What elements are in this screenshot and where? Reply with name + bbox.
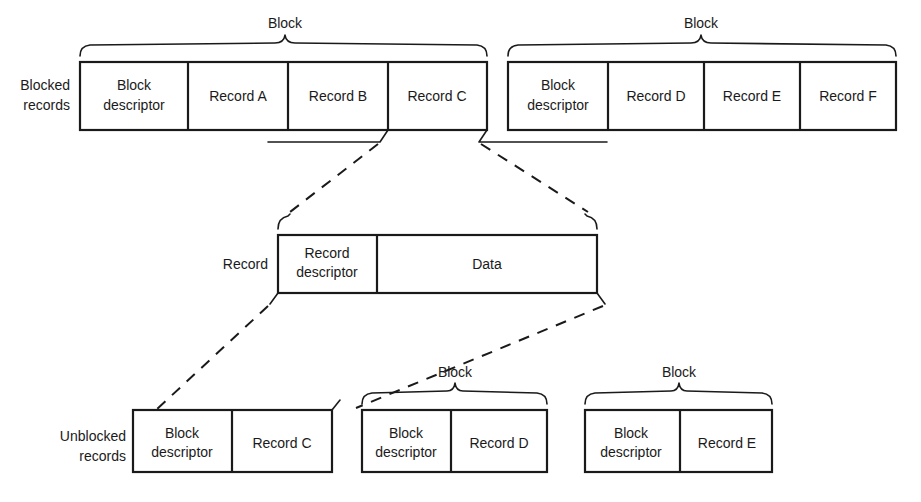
record-c-expansion-connectors [268,130,607,212]
record-detail-cell-0-line2: descriptor [296,264,358,280]
block-brace-2-label: Block [684,15,719,31]
unblocked-block-3-brace-label: Block [662,364,697,380]
block-brace-2: Block [508,15,896,56]
unblocked-block-1-cell-0-line2: descriptor [151,444,213,460]
block-brace-1-label: Block [268,15,303,31]
unblocked-block-3-cell-0-line1: Block [614,425,649,441]
unblocked-records-label: Unblocked records [60,428,126,464]
record-blocking-diagram: Blocked records Block Block descriptor R… [0,0,921,502]
blocked-block-2-cell-3-line1: Record F [819,88,877,104]
unblocked-block-3-cell-0-line2: descriptor [600,444,662,460]
blocked-block-2-cell-1-line1: Record D [626,88,685,104]
blocked-records-label-line2: records [23,97,70,113]
unblocked-block-2-cell-1-line1: Record D [469,435,528,451]
unblocked-block-2-brace-label: Block [438,364,473,380]
unblocked-block-1-cell-1-line1: Record C [252,435,311,451]
blocked-block-1-cell-2-line1: Record B [309,88,367,104]
diagram-canvas: Blocked records Block Block descriptor R… [0,0,921,502]
unblocked-records-label-line1: Unblocked [60,428,126,444]
blocked-records-label: Blocked records [20,77,70,113]
unblocked-records-label-line2: records [79,448,126,464]
blocked-block-2-cell-2-line1: Record E [723,88,781,104]
blocked-block-1-cell-0-line2: descriptor [103,97,165,113]
blocked-block-2: Block descriptor Record D Record E Recor… [508,62,896,130]
unblocked-block-1: Block descriptor Record C [133,400,340,472]
record-detail-cell-0-line1: Record [304,245,349,261]
unblocked-block-2-cell-0-line1: Block [389,425,424,441]
record-detail-box: Record descriptor Data [278,235,597,293]
blocked-block-2-cell-0-line1: Block [541,77,576,93]
blocked-block-1-cell-3-line1: Record C [407,88,466,104]
unblocked-block-3-brace [585,383,772,404]
record-detail-brace [278,214,597,229]
unblocked-block-2-cell-0-line2: descriptor [375,444,437,460]
blocked-block-1-cell-0-line1: Block [117,77,152,93]
blocked-records-label-line1: Blocked [20,77,70,93]
block-brace-1: Block [80,15,487,56]
record-label: Record [223,256,268,272]
blocked-block-1: Block descriptor Record A Record B Recor… [80,62,487,130]
record-detail-label: Record [223,256,268,272]
blocked-block-2-cell-0-line2: descriptor [527,97,589,113]
unblocked-block-3: Block Block descriptor Record E [585,364,772,472]
unblocked-block-3-cell-1-line1: Record E [698,435,756,451]
unblocked-block-1-cell-0-line1: Block [165,425,200,441]
blocked-block-1-cell-1-line1: Record A [209,88,267,104]
record-detail-cell-1-line1: Data [472,256,502,272]
unblocked-block-2: Block Block descriptor Record D [362,364,547,472]
